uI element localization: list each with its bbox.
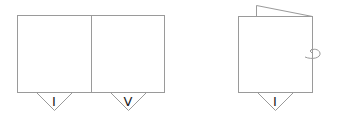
folded-card-label: I — [273, 94, 277, 109]
panel-right-label: V — [124, 94, 133, 109]
folded-flap — [257, 6, 313, 17]
folded-card-outline — [239, 17, 313, 93]
folding-diagram: I V I — [0, 0, 342, 119]
open-card — [18, 16, 165, 111]
panel-left-label: I — [52, 94, 56, 109]
